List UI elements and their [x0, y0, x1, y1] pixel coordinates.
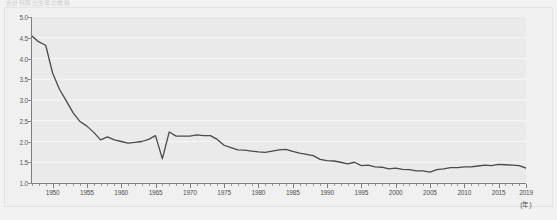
x-axis-tick-label: 2015 [492, 189, 506, 196]
x-axis-major-tick [53, 184, 54, 188]
x-axis-minor-tick [341, 184, 342, 186]
y-axis-tick-label: 4.0 [20, 55, 28, 62]
y-axis-tick-label: 2.5 [20, 117, 28, 124]
x-axis-minor-tick [368, 184, 369, 186]
y-axis-tick-label: 1.5 [20, 159, 28, 166]
x-axis-minor-tick [334, 184, 335, 186]
chart-title: 合計特殊出生率の推移 [6, 0, 236, 7]
x-axis-minor-tick [354, 184, 355, 186]
y-axis-tick-label: 3.5 [20, 76, 28, 83]
x-axis-minor-tick [389, 184, 390, 186]
x-axis-minor-tick [457, 184, 458, 186]
x-axis-tick-label: 1950 [46, 189, 60, 196]
x-axis-minor-tick [286, 184, 287, 186]
x-axis-minor-tick [512, 184, 513, 186]
x-axis-major-tick [327, 184, 328, 188]
x-axis-minor-tick [375, 184, 376, 186]
y-axis-tick [28, 142, 32, 143]
x-axis-minor-tick [114, 184, 115, 186]
x-axis-minor-tick [265, 184, 266, 186]
x-axis-minor-tick [505, 184, 506, 186]
x-axis-minor-tick [101, 184, 102, 186]
x-axis-minor-tick [416, 184, 417, 186]
x-axis-major-tick [464, 184, 465, 188]
x-axis-minor-tick [409, 184, 410, 186]
x-axis-major-tick [156, 184, 157, 188]
x-axis-minor-tick [183, 184, 184, 186]
x-axis-minor-tick [306, 184, 307, 186]
chart-figure: 合計特殊出生率の推移 1.01.52.02.53.03.54.04.55.0 1… [0, 0, 557, 220]
x-axis-minor-tick [210, 184, 211, 186]
x-axis-minor-tick [204, 184, 205, 186]
y-axis-tick-label: 4.5 [20, 34, 28, 41]
x-axis-minor-tick [142, 184, 143, 186]
x-axis-minor-tick [245, 184, 246, 186]
gridlines [32, 17, 526, 183]
x-axis-minor-tick [217, 184, 218, 186]
x-axis-minor-tick [169, 184, 170, 186]
x-axis-major-tick [87, 184, 88, 188]
x-axis-minor-tick [162, 184, 163, 186]
x-axis-major-tick [526, 184, 527, 188]
x-axis-major-tick [224, 184, 225, 188]
x-axis-minor-tick [471, 184, 472, 186]
x-axis-major-tick [293, 184, 294, 188]
x-axis-minor-tick [94, 184, 95, 186]
y-axis-tick-label: 3.0 [20, 97, 28, 104]
x-axis-minor-tick [451, 184, 452, 186]
y-axis-tick [28, 79, 32, 80]
x-axis-minor-tick [320, 184, 321, 186]
x-axis-minor-tick [197, 184, 198, 186]
x-axis-tick-label: 1970 [183, 189, 197, 196]
y-axis-tick-label: 2.0 [20, 138, 28, 145]
x-axis-minor-tick [46, 184, 47, 186]
x-axis-minor-tick [485, 184, 486, 186]
x-axis-tick-label: 2005 [423, 189, 437, 196]
y-axis-tick [28, 100, 32, 101]
x-axis-minor-tick [437, 184, 438, 186]
plot-area [32, 17, 526, 183]
y-axis-labels: 1.01.52.02.53.03.54.04.55.0 [4, 17, 30, 183]
x-axis-minor-tick [300, 184, 301, 186]
x-axis-minor-tick [348, 184, 349, 186]
x-axis-minor-tick [279, 184, 280, 186]
x-axis-minor-tick [272, 184, 273, 186]
x-axis-minor-tick [73, 184, 74, 186]
x-axis-major-tick [361, 184, 362, 188]
x-axis-minor-tick [107, 184, 108, 186]
series-line-fertility-rate [32, 36, 526, 172]
x-axis-minor-tick [80, 184, 81, 186]
x-axis-minor-tick [478, 184, 479, 186]
x-axis-tick-label: 1965 [149, 189, 163, 196]
x-axis-tick-label: 1990 [320, 189, 334, 196]
y-axis-tick [28, 38, 32, 39]
x-axis-minor-tick [66, 184, 67, 186]
x-axis-minor-tick [313, 184, 314, 186]
x-axis-tick-label: 1980 [252, 189, 266, 196]
x-axis-minor-tick [128, 184, 129, 186]
x-axis-minor-tick [135, 184, 136, 186]
x-axis-minor-tick [519, 184, 520, 186]
x-axis-minor-tick [238, 184, 239, 186]
x-axis-minor-tick [59, 184, 60, 186]
x-axis-unit-label: (年) [520, 199, 531, 209]
x-axis-tick-label: 1995 [354, 189, 368, 196]
x-axis-minor-tick [444, 184, 445, 186]
x-axis-minor-tick [176, 184, 177, 186]
y-axis-tick [28, 59, 32, 60]
x-axis-major-tick [258, 184, 259, 188]
y-axis-tick [28, 121, 32, 122]
y-axis-tick-label: 1.0 [20, 180, 28, 187]
x-axis-minor-tick [32, 184, 33, 186]
x-axis-tick-label: 2000 [389, 189, 403, 196]
x-axis-major-tick [396, 184, 397, 188]
x-axis-minor-tick [231, 184, 232, 186]
x-axis-major-tick [190, 184, 191, 188]
x-axis-minor-tick [403, 184, 404, 186]
x-axis-minor-tick [382, 184, 383, 186]
x-axis-major-tick [499, 184, 500, 188]
y-axis-tick-label: 5.0 [20, 14, 28, 21]
x-axis-minor-tick [149, 184, 150, 186]
y-axis-tick [28, 162, 32, 163]
x-axis-tick-label: 1955 [80, 189, 94, 196]
